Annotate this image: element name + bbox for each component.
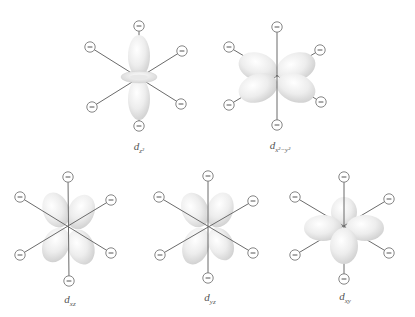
orbital-label-dxy: dxy — [339, 290, 351, 305]
ligand-charge-icon — [85, 42, 95, 52]
orbital-label-dz2: dz² — [134, 140, 144, 155]
ligand-charge-icon — [272, 120, 282, 130]
orbital-label-subscript: z² — [139, 147, 144, 155]
orbital-dxz — [20, 177, 111, 281]
orbital-label-subscript: xy — [345, 297, 351, 305]
ligand-charge-icon — [316, 97, 326, 107]
ligand-charge-icon — [134, 21, 144, 31]
ligand-charge-icon — [224, 100, 234, 110]
ligand-charge-icon — [339, 274, 349, 284]
ligand-charge-icon — [177, 46, 187, 56]
ligand-charge-icon — [248, 248, 258, 258]
ligand-charge-icon — [134, 121, 144, 131]
ligand-charge-icon — [106, 195, 116, 205]
orbital-label-dxz: dxz — [64, 293, 75, 308]
ligand-charge-icon — [87, 102, 97, 112]
ligand-charge-icon — [384, 194, 394, 204]
ligand-charge-icon — [106, 248, 116, 258]
ligand-charge-icon — [154, 192, 164, 202]
lobes — [121, 35, 157, 120]
orbital-label-subscript: yz — [210, 298, 216, 306]
orbital-label-subscript: xz — [70, 300, 76, 308]
orbital-dxy — [295, 177, 389, 279]
lobes — [176, 188, 239, 268]
axis-lines — [20, 177, 111, 281]
ligand-charge-icon — [315, 45, 325, 55]
ligand-charge-icon — [272, 22, 282, 32]
axis-lines — [159, 176, 253, 278]
orbital-diagram — [0, 0, 415, 317]
ligand-charge-icon — [224, 42, 234, 52]
orbital-label-dyz: dyz — [204, 291, 215, 306]
orbital-dz2 — [90, 26, 182, 126]
ligand-charge-icon — [384, 248, 394, 258]
ligand-charge-icon — [155, 250, 165, 260]
ligand-charge-icon — [203, 273, 213, 283]
ligand-charge-icon — [15, 192, 25, 202]
ligand-charge-icon — [15, 250, 25, 260]
ligand-charge-icon — [64, 276, 74, 286]
ligand-charge-icon — [63, 172, 73, 182]
ligand-charge-icon — [176, 99, 186, 109]
ligand-charge-icon — [290, 192, 300, 202]
orbital-label-subscript: x²−y² — [275, 146, 290, 154]
ligand-charge-icon — [339, 172, 349, 182]
orbital-dx2-y2 — [229, 27, 321, 125]
orbital-label-dx2-y2: dx²−y² — [270, 139, 291, 154]
front-lobe — [330, 228, 358, 264]
ligand-charge-icon — [290, 250, 300, 260]
ligand-charge-icon — [203, 171, 213, 181]
orbital-dyz — [159, 176, 253, 278]
ligand-charge-icon — [248, 196, 258, 206]
